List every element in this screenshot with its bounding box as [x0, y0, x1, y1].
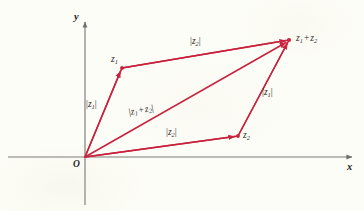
- vertex-label-z1-plus-z2: z1+z2: [296, 34, 317, 44]
- axis-group: [8, 22, 352, 205]
- sum-label-second-sub: 2: [314, 37, 317, 44]
- magnitude-label-z2-bottom: |z2|: [166, 128, 177, 138]
- vector-z2-translated: [122, 41, 286, 69]
- vertex-label-z2: z2: [243, 131, 250, 141]
- vector-z1: [85, 71, 121, 157]
- mod-bar-close-3: |: [271, 87, 273, 97]
- origin-label: O: [73, 160, 80, 170]
- figure-canvas: [0, 0, 364, 211]
- vertex-dot-sum: [287, 38, 291, 42]
- complex-number-parallelogram-figure: y x O z1 z2 z1+z2 |z1| |z2| |z1| |z2| |z…: [0, 0, 364, 211]
- magnitude-label-z1-left: |z1|: [86, 100, 97, 110]
- vertex-label-z2-sub: 2: [247, 134, 250, 141]
- mod-bar-close-1: |: [95, 99, 97, 109]
- magnitude-label-z1-right: |z1|: [262, 88, 273, 98]
- mod-bar-close-4: |: [175, 127, 177, 137]
- mod-bar-close-2: |: [199, 36, 201, 46]
- vertex-label-z1: z1: [111, 55, 118, 65]
- magnitude-label-z2-top: |z2|: [190, 37, 201, 47]
- x-axis-label: x: [347, 162, 352, 173]
- y-axis-label: y: [74, 12, 79, 23]
- vertex-dot-z1: [120, 66, 124, 70]
- vector-z2: [85, 137, 235, 158]
- vertex-label-z1-sub: 1: [115, 58, 118, 65]
- vertex-dot-z2: [236, 134, 240, 138]
